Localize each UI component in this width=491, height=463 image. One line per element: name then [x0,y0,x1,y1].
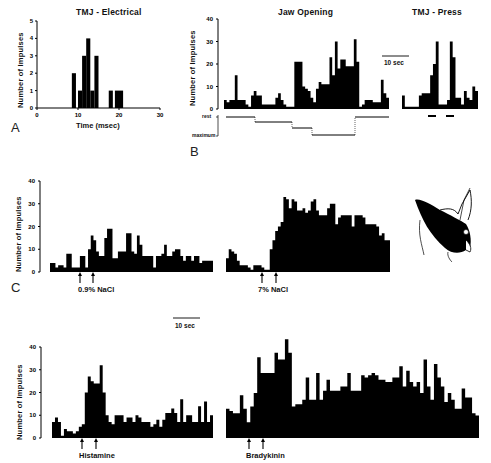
panel-d-histograms: 010203040 [0,0,491,463]
svg-text:40: 40 [29,344,36,350]
svg-text:20: 20 [29,390,36,396]
svg-text:0: 0 [33,435,37,441]
svg-text:30: 30 [29,367,36,373]
stimulus-label-histamine: Histamine [79,451,115,460]
svg-text:10: 10 [29,412,36,418]
stimulus-label-bradykinin: Bradykinin [246,451,285,460]
